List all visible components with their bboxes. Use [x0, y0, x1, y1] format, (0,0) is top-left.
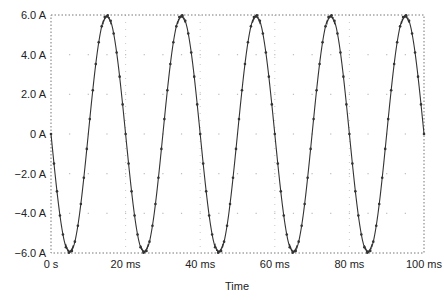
- data-marker: [226, 224, 229, 227]
- data-marker: [65, 246, 68, 249]
- data-marker: [160, 148, 163, 151]
- x-tick-label: 0 s: [44, 258, 59, 270]
- data-marker: [351, 162, 354, 165]
- data-marker: [291, 251, 294, 254]
- data-marker: [109, 20, 112, 23]
- data-marker: [166, 89, 169, 92]
- data-marker: [157, 177, 160, 180]
- data-marker: [217, 251, 220, 254]
- data-marker: [384, 148, 387, 151]
- y-tick-label: 6.0 A: [21, 9, 47, 21]
- data-marker: [405, 14, 408, 17]
- data-marker: [199, 133, 202, 136]
- data-marker: [411, 32, 414, 35]
- data-marker: [91, 89, 94, 92]
- data-marker: [393, 63, 396, 66]
- data-marker: [229, 203, 232, 206]
- data-marker: [360, 233, 363, 236]
- x-tick-label: 60 ms: [260, 258, 290, 270]
- data-marker: [259, 20, 262, 23]
- data-marker: [300, 224, 303, 227]
- data-marker: [399, 25, 402, 28]
- data-marker: [118, 75, 121, 78]
- data-marker: [303, 203, 306, 206]
- data-marker: [94, 63, 97, 66]
- data-marker: [276, 162, 279, 165]
- data-marker: [56, 190, 59, 193]
- data-marker: [211, 233, 214, 236]
- x-tick-label: 20 ms: [111, 258, 141, 270]
- data-marker: [241, 89, 244, 92]
- data-marker: [268, 75, 271, 78]
- data-marker: [274, 133, 277, 136]
- data-marker: [175, 25, 178, 28]
- data-marker: [363, 246, 366, 249]
- data-marker: [145, 250, 148, 253]
- data-marker: [59, 214, 62, 217]
- data-marker: [294, 250, 297, 253]
- data-marker: [151, 224, 154, 227]
- data-marker: [306, 177, 309, 180]
- data-marker: [354, 190, 357, 193]
- data-marker: [148, 240, 151, 243]
- data-marker: [133, 214, 136, 217]
- data-marker: [115, 51, 118, 54]
- data-marker: [208, 214, 211, 217]
- data-marker: [193, 75, 196, 78]
- data-marker: [172, 41, 175, 44]
- data-marker: [256, 14, 259, 17]
- x-axis-label: Time: [225, 280, 249, 292]
- data-marker: [408, 20, 411, 23]
- data-marker: [247, 41, 250, 44]
- data-marker: [88, 118, 91, 121]
- data-marker: [103, 16, 106, 19]
- data-marker: [324, 25, 327, 28]
- data-marker: [196, 103, 199, 106]
- data-marker: [127, 162, 130, 165]
- data-marker: [288, 246, 291, 249]
- y-tick-label: −6.0 A: [14, 247, 46, 259]
- data-marker: [86, 148, 89, 151]
- data-marker: [238, 118, 241, 121]
- data-marker: [285, 233, 288, 236]
- data-marker: [366, 251, 369, 254]
- data-marker: [205, 190, 208, 193]
- data-marker: [271, 103, 274, 106]
- data-marker: [339, 51, 342, 54]
- data-marker: [265, 51, 268, 54]
- data-marker: [333, 20, 336, 23]
- data-marker: [297, 240, 300, 243]
- data-marker: [318, 63, 321, 66]
- data-marker: [100, 25, 103, 28]
- data-marker: [97, 41, 100, 44]
- data-marker: [336, 32, 339, 35]
- data-marker: [187, 32, 190, 35]
- y-tick-label: 2.0 A: [21, 88, 47, 100]
- current-vs-time-chart: 6.0 A4.0 A2.0 A0 A−2.0 A−4.0 A−6.0 A 0 s…: [0, 0, 444, 300]
- data-marker: [262, 32, 265, 35]
- data-marker: [71, 250, 74, 253]
- data-marker: [423, 133, 426, 136]
- data-marker: [414, 51, 417, 54]
- data-marker: [312, 118, 315, 121]
- data-marker: [402, 16, 405, 19]
- data-marker: [420, 103, 423, 106]
- data-marker: [378, 203, 381, 206]
- data-marker: [342, 75, 345, 78]
- data-marker: [181, 14, 184, 17]
- data-marker: [68, 251, 71, 254]
- data-marker: [62, 233, 65, 236]
- data-marker: [372, 240, 375, 243]
- x-axis-ticks: 0 s20 ms40 ms60 ms80 ms100 ms: [44, 258, 443, 270]
- data-marker: [369, 250, 372, 253]
- data-marker: [220, 250, 223, 253]
- y-tick-label: −4.0 A: [14, 207, 46, 219]
- data-marker: [244, 63, 247, 66]
- data-marker: [154, 203, 157, 206]
- data-marker: [142, 251, 145, 254]
- data-marker: [130, 190, 133, 193]
- data-marker: [390, 89, 393, 92]
- data-marker: [375, 224, 378, 227]
- data-marker: [327, 16, 330, 19]
- data-marker: [387, 118, 390, 121]
